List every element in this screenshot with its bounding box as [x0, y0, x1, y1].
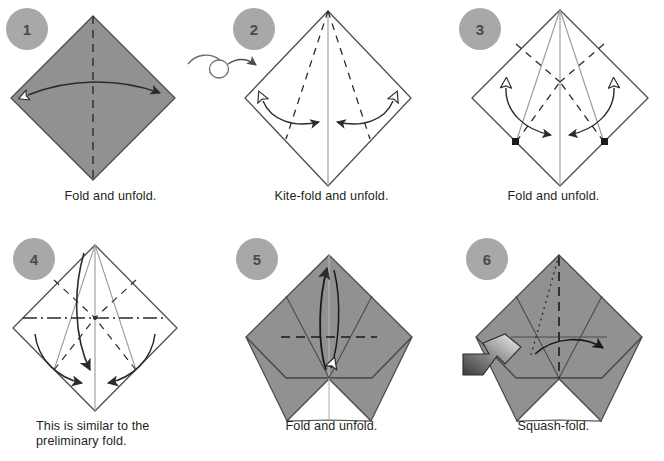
step-caption-2: Kite-fold and unfold. — [221, 189, 442, 204]
step-number-label-3: 3 — [476, 21, 484, 38]
step-caption-3: Fold and unfold. — [443, 189, 664, 204]
step-badge-3: 3 — [459, 8, 501, 50]
center-point-4 — [93, 316, 97, 320]
step-number-label-2: 2 — [250, 21, 258, 38]
step-caption-4: This is similar to the preliminary fold. — [0, 419, 185, 449]
step-caption-6: Squash-fold. — [443, 419, 664, 434]
step-badge-5: 5 — [236, 238, 278, 280]
step-number-label-6: 6 — [483, 251, 491, 268]
step-caption-5: Fold and unfold. — [221, 419, 442, 434]
step-badge-2: 2 — [233, 8, 275, 50]
reference-point-right-3 — [601, 138, 608, 145]
step-badge-1: 1 — [6, 8, 48, 50]
step-caption-1: Fold and unfold. — [0, 189, 221, 204]
step-number-label-5: 5 — [253, 251, 261, 268]
reference-point-left-3 — [512, 138, 519, 145]
step-badge-4: 4 — [13, 238, 55, 280]
step-number-label-4: 4 — [30, 251, 38, 268]
step-number-label-1: 1 — [23, 21, 31, 38]
step-badge-6: 6 — [466, 238, 508, 280]
origami-diagram-sheet: Fold and unfold. — [0, 0, 664, 461]
